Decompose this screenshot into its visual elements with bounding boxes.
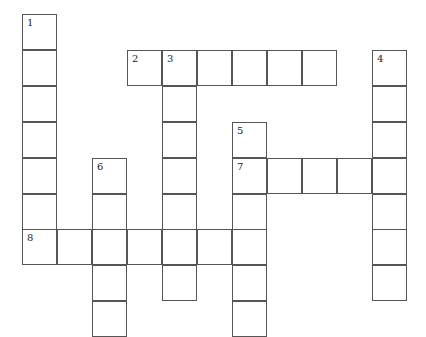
- crossword-cell[interactable]: [162, 86, 197, 122]
- crossword-cell[interactable]: [162, 158, 197, 194]
- crossword-cell[interactable]: [232, 301, 267, 337]
- crossword-cell[interactable]: [232, 50, 267, 86]
- crossword-grid: 18234576: [0, 0, 426, 337]
- crossword-cell[interactable]: [162, 265, 197, 301]
- crossword-cell[interactable]: [22, 86, 57, 122]
- crossword-cell[interactable]: [127, 229, 162, 265]
- crossword-cell[interactable]: [92, 229, 127, 265]
- crossword-cell[interactable]: 7: [232, 158, 267, 194]
- clue-number: 1: [27, 18, 33, 28]
- crossword-cell[interactable]: [372, 122, 407, 158]
- crossword-cell[interactable]: 5: [232, 122, 267, 158]
- crossword-cell[interactable]: [372, 158, 407, 194]
- crossword-cell[interactable]: [162, 194, 197, 230]
- clue-number: 3: [167, 54, 173, 64]
- crossword-cell[interactable]: 1: [22, 14, 57, 50]
- clue-number: 2: [132, 54, 138, 64]
- crossword-cell[interactable]: [22, 50, 57, 86]
- crossword-cell[interactable]: [22, 158, 57, 194]
- crossword-cell[interactable]: [57, 229, 92, 265]
- crossword-cell[interactable]: [232, 194, 267, 230]
- crossword-cell[interactable]: 4: [372, 50, 407, 86]
- crossword-cell[interactable]: [337, 158, 372, 194]
- clue-number: 5: [237, 126, 243, 136]
- crossword-cell[interactable]: [22, 122, 57, 158]
- crossword-cell[interactable]: [232, 265, 267, 301]
- crossword-cell[interactable]: 8: [22, 229, 57, 265]
- crossword-cell[interactable]: [22, 194, 57, 230]
- crossword-cell[interactable]: [267, 50, 302, 86]
- crossword-cell[interactable]: [372, 86, 407, 122]
- clue-number: 4: [377, 54, 383, 64]
- crossword-cell[interactable]: [92, 265, 127, 301]
- crossword-cell[interactable]: 6: [92, 158, 127, 194]
- crossword-cell[interactable]: [162, 122, 197, 158]
- clue-number: 6: [97, 162, 103, 172]
- clue-number: 7: [237, 162, 243, 172]
- crossword-cell[interactable]: [302, 158, 337, 194]
- crossword-cell[interactable]: [302, 50, 337, 86]
- crossword-cell[interactable]: [92, 194, 127, 230]
- crossword-cell[interactable]: [162, 229, 197, 265]
- crossword-cell[interactable]: [197, 229, 232, 265]
- crossword-cell[interactable]: [372, 265, 407, 301]
- crossword-cell[interactable]: [267, 158, 302, 194]
- crossword-cell[interactable]: [232, 229, 267, 265]
- crossword-cell[interactable]: 2: [127, 50, 162, 86]
- crossword-cell[interactable]: 3: [162, 50, 197, 86]
- crossword-cell[interactable]: [197, 50, 232, 86]
- crossword-cell[interactable]: [92, 301, 127, 337]
- crossword-cell[interactable]: [372, 194, 407, 230]
- clue-number: 8: [27, 233, 33, 243]
- crossword-cell[interactable]: [372, 229, 407, 265]
